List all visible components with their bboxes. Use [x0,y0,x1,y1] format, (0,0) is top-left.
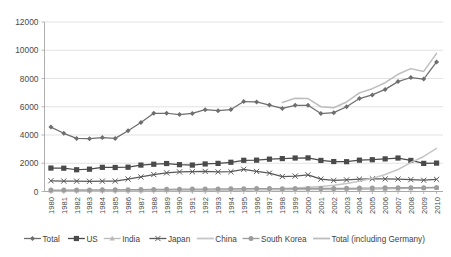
data-point-square [190,162,195,167]
chart-legend: TotalUSIndiaJapanChinaSouth KoreaTotal (… [24,235,425,244]
legend-label: China [215,235,237,244]
data-point-circle [370,185,375,190]
data-point-circle [357,186,362,191]
x-tick-label: 1992 [201,197,210,214]
data-point-square [74,236,79,241]
data-point-square [383,156,388,161]
legend-item-china[interactable]: China [197,235,237,244]
x-tick-label: 1989 [163,197,172,214]
x-tick-label: 2005 [368,197,377,214]
legend-item-india[interactable]: India [104,235,141,244]
data-point-square [151,162,156,167]
legend-item-south-korea[interactable]: South Korea [243,235,307,244]
legend-item-us[interactable]: US [68,235,98,244]
data-point-circle [254,186,259,191]
legend-label: Total [43,235,60,244]
data-point-square [61,166,66,171]
data-point-square [138,162,143,167]
data-point-diamond [177,112,182,117]
data-point-circle [267,186,272,191]
data-point-circle [151,187,156,192]
data-point-square [318,158,323,163]
data-point-circle [241,186,246,191]
x-tick-label: 2007 [394,197,403,214]
data-point-square [434,161,439,166]
y-tick-label: 0 [34,187,39,197]
data-point-square [113,165,118,170]
data-point-diamond [370,92,375,97]
x-tick-label: 1985 [111,197,120,214]
data-point-circle [408,185,413,190]
data-point-square [87,167,92,172]
x-tick-label: 1998 [278,197,287,214]
data-point-diamond [254,99,259,104]
legend-item-total[interactable]: Total [24,235,60,244]
data-point-circle [216,186,221,191]
x-tick-label: 1996 [253,197,262,214]
x-tick-label: 2004 [355,197,364,214]
x-tick-label: 1995 [240,197,249,214]
data-point-square [331,159,336,164]
data-point-circle [249,236,254,241]
x-tick-label: 1993 [214,197,223,214]
y-tick-label: 12000 [15,17,39,27]
x-tick-label: 2001 [317,197,326,214]
legend-label: India [122,235,140,244]
data-point-square [228,160,233,165]
data-point-square [421,161,426,166]
y-tick-label: 6000 [20,102,39,112]
data-point-diamond [30,236,35,241]
x-tick-label: 1986 [124,197,133,214]
data-point-circle [126,187,131,192]
x-tick-label: 1999 [291,197,300,214]
line-chart: 020004000600080001000012000 198019811982… [0,0,451,257]
data-point-circle [138,187,143,192]
data-point-circle [344,186,349,191]
data-point-diamond [331,110,336,115]
data-point-circle [228,186,233,191]
data-point-circle [164,187,169,192]
data-point-square [254,158,259,163]
data-point-circle [280,186,285,191]
data-point-circle [396,185,401,190]
y-tick-label: 2000 [20,158,39,168]
data-point-square [74,167,79,172]
data-point-diamond [408,75,413,80]
y-tick-label: 8000 [20,74,39,84]
x-tick-label: 2006 [381,197,390,214]
x-tick-label: 1983 [85,197,94,214]
x-tick-label: 1981 [60,197,69,214]
data-point-diamond [190,111,195,116]
x-tick-label: 1987 [137,197,146,214]
legend-item-total-including-germany[interactable]: Total (including Germany) [313,235,425,244]
data-point-diamond [216,108,221,113]
data-point-square [177,162,182,167]
data-point-circle [177,187,182,192]
data-point-square [293,155,298,160]
y-tick-label: 10000 [15,45,39,55]
series-total [48,59,439,141]
data-point-circle [190,187,195,192]
data-point-square [267,157,272,162]
data-point-square [203,161,208,166]
x-tick-label: 2008 [407,197,416,214]
legend-label: US [86,235,98,244]
data-point-circle [434,185,439,190]
data-point-square [370,157,375,162]
data-point-square [125,165,130,170]
data-point-diamond [164,111,169,116]
data-point-circle [318,186,323,191]
x-tick-label: 2003 [343,197,352,214]
x-tick-label: 1994 [227,197,236,214]
x-tick-label: 1991 [188,197,197,214]
x-tick-label: 1980 [47,197,56,214]
data-point-diamond [48,125,53,130]
data-point-square [215,161,220,166]
data-point-circle [331,186,336,191]
legend-item-japan[interactable]: Japan [149,235,190,244]
data-point-square [164,161,169,166]
data-point-diamond [87,136,92,141]
data-point-circle [293,186,298,191]
data-point-square [357,158,362,163]
x-tick-label: 2009 [420,197,429,214]
